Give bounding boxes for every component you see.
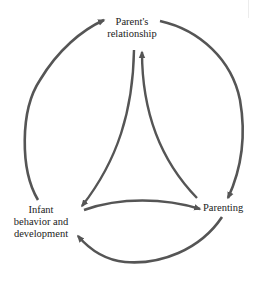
node-parenting: Parenting (203, 202, 259, 214)
node-label-line: Parent's (96, 16, 168, 28)
node-label-line: Infant (2, 204, 80, 216)
node-label-line: behavior and (2, 216, 80, 228)
node-label-line: Parenting (203, 202, 259, 214)
node-label-line: development (2, 228, 80, 240)
arrow-infant-to-parenting (84, 201, 200, 211)
arrow-infant-to-parents-relationship (25, 20, 104, 200)
node-parents-relationship: Parent's relationship (96, 16, 168, 40)
node-label-line: relationship (96, 28, 168, 40)
arrow-parenting-to-infant (78, 217, 222, 262)
arrow-parents-relationship-to-infant (82, 50, 134, 206)
node-infant-behavior: Infant behavior and development (2, 204, 80, 240)
arrow-parents-relationship-to-parenting (160, 21, 243, 198)
arrow-parenting-to-parents-relationship (142, 52, 197, 198)
